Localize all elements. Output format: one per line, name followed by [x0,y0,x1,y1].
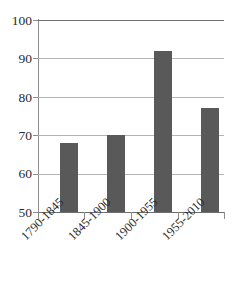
plot-area [38,20,224,212]
y-tick-label-70: 70 [2,129,32,143]
gridline-80 [38,97,224,98]
gridline-90 [38,58,224,59]
y-tick-label-60: 60 [2,167,32,181]
y-tick-label-80: 80 [2,91,32,105]
gridline-70 [38,135,224,136]
y-axis-tick-labels: 100 90 80 70 60 50 [0,0,32,298]
y-tick-label-90: 90 [2,52,32,66]
bar-1900-1955 [154,51,172,212]
x-tick-mark-4 [224,212,225,219]
bar-1955-2010 [201,108,219,212]
gridline-100 [38,20,224,21]
bar-chart-figure: 100 90 80 70 60 50 1790-1845 1845-1900 1… [0,0,237,298]
y-tick-label-100: 100 [2,14,32,28]
y-tick-label-50: 50 [2,206,32,220]
